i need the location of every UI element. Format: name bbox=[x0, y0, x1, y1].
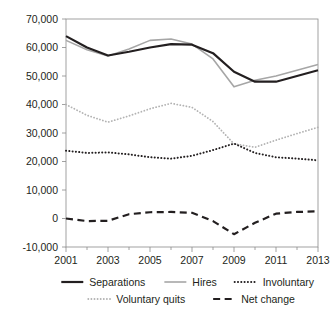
y-tick-label: 70,000 bbox=[26, 13, 58, 25]
y-tick-label: 20,000 bbox=[26, 155, 58, 167]
y-tick-label: 30,000 bbox=[26, 127, 58, 139]
x-tick-label: 2013 bbox=[306, 254, 330, 266]
x-tick-label: 2005 bbox=[138, 254, 162, 266]
y-tick-label: 0 bbox=[52, 212, 58, 224]
x-tick-label: 2003 bbox=[96, 254, 120, 266]
y-tick-label: 60,000 bbox=[26, 41, 58, 53]
x-tick-label: 2007 bbox=[180, 254, 204, 266]
legend-label-voluntary-quits: Voluntary quits bbox=[116, 293, 185, 305]
line-chart: 70,00060,00050,00040,00030,00020,00010,0… bbox=[0, 0, 336, 320]
legend-label-involuntary: Involuntary bbox=[263, 276, 315, 288]
x-tick-label: 2011 bbox=[265, 254, 288, 266]
y-tick-label: -10,000 bbox=[22, 241, 58, 253]
x-tick-label: 2009 bbox=[222, 254, 246, 266]
x-tick-label: 2001 bbox=[54, 254, 78, 266]
legend-label-separations: Separations bbox=[89, 276, 145, 288]
chart-figure: 70,00060,00050,00040,00030,00020,00010,0… bbox=[0, 0, 336, 320]
legend-label-net-change: Net change bbox=[241, 293, 295, 305]
y-tick-label: 50,000 bbox=[26, 70, 58, 82]
legend-label-hires: Hires bbox=[192, 276, 217, 288]
y-tick-label: 10,000 bbox=[26, 184, 58, 196]
y-tick-label: 40,000 bbox=[26, 98, 58, 110]
